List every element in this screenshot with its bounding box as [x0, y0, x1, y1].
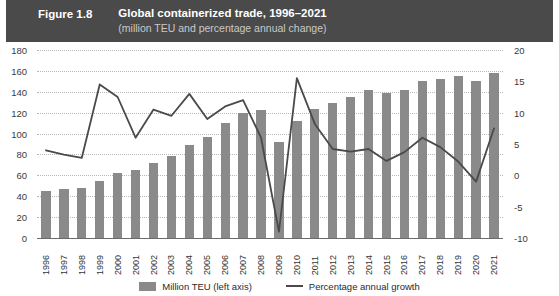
x-tick-label: 2011 [310, 256, 320, 275]
x-tick-label: 2020 [471, 255, 481, 275]
bar-swatch-icon [139, 282, 156, 291]
x-axis-line [37, 238, 503, 239]
x-tick-label: 2017 [417, 255, 427, 275]
figure-number: Figure 1.8 [38, 8, 92, 20]
growth-line-series [37, 50, 503, 238]
y-tick-left: 80 [16, 149, 27, 160]
x-tick-label: 2000 [113, 255, 123, 275]
x-tick-label: 2002 [149, 255, 159, 275]
y-axis-right: -10-505101520 [506, 50, 546, 238]
legend-label-bars: Million TEU (left axis) [162, 281, 252, 292]
x-tick-label: 2007 [238, 255, 248, 275]
figure-title-block: Global containerized trade, 1996–2021 (m… [118, 7, 326, 35]
y-tick-left: 0 [22, 233, 27, 244]
y-tick-right: 5 [514, 139, 519, 150]
x-tick-label: 2004 [184, 255, 194, 275]
growth-polyline [46, 78, 494, 232]
x-tick-label: 2016 [399, 255, 409, 275]
chart-legend: Million TEU (left axis) Percentage annua… [0, 276, 559, 296]
x-tick-label: 2021 [489, 255, 499, 275]
x-tick-label: 2006 [220, 255, 230, 275]
y-tick-left: 20 [16, 212, 27, 223]
y-tick-left: 40 [16, 191, 27, 202]
x-tick-label: 2015 [382, 255, 392, 275]
y-tick-left: 160 [11, 65, 27, 76]
legend-item-bars: Million TEU (left axis) [139, 281, 252, 292]
x-tick-label: 2010 [292, 255, 302, 275]
x-tick-label: 2019 [453, 255, 463, 275]
x-tick-label: 2009 [274, 255, 284, 275]
legend-label-line: Percentage annual growth [309, 281, 420, 292]
x-axis-labels: 1996199719981999200020012002200320042005… [37, 241, 503, 275]
x-tick-label: 2018 [435, 255, 445, 275]
y-tick-left: 100 [11, 128, 27, 139]
x-tick-label: 1999 [95, 255, 105, 275]
y-tick-left: 180 [11, 45, 27, 56]
x-tick-label: 2013 [346, 255, 356, 275]
figure-container: Figure 1.8 Global containerized trade, 1… [0, 0, 559, 296]
y-tick-left: 120 [11, 107, 27, 118]
y-tick-right: -10 [514, 233, 528, 244]
x-tick-label: 1996 [41, 255, 51, 275]
plot-area [37, 50, 503, 238]
x-tick-label: 2001 [131, 255, 141, 275]
y-tick-right: 10 [514, 107, 525, 118]
y-tick-right: 15 [514, 76, 525, 87]
line-swatch-icon [286, 285, 303, 287]
x-tick-label: 1997 [59, 255, 69, 275]
x-tick-label: 2003 [166, 255, 176, 275]
figure-subtitle: (million TEU and percentage annual chang… [118, 22, 326, 35]
x-tick-label: 2012 [328, 255, 338, 275]
x-tick-label: 2014 [364, 255, 374, 275]
x-tick-label: 2008 [256, 255, 266, 275]
legend-item-line: Percentage annual growth [286, 281, 420, 292]
y-axis-left: 020406080100120140160180 [0, 50, 32, 238]
x-tick-label: 1998 [77, 255, 87, 275]
page-title: Global containerized trade, 1996–2021 [118, 7, 326, 20]
x-tick-label: 2005 [202, 255, 212, 275]
y-tick-left: 60 [16, 170, 27, 181]
y-tick-right: 0 [514, 170, 519, 181]
y-tick-right: -5 [514, 201, 522, 212]
figure-header: Figure 1.8 Global containerized trade, 1… [6, 0, 553, 42]
y-tick-right: 20 [514, 45, 525, 56]
y-tick-left: 140 [11, 86, 27, 97]
